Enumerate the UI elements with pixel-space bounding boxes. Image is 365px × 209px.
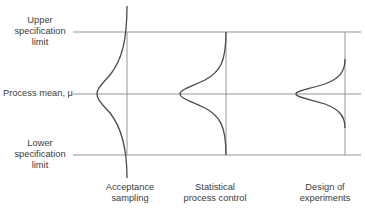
label-line: Upper: [10, 15, 70, 26]
label-line: sampling: [95, 193, 165, 204]
label-line: specification: [10, 26, 70, 37]
doe-label: Design of experiments: [295, 182, 355, 204]
label-line: Statistical: [172, 182, 258, 193]
label-line: limit: [10, 37, 70, 48]
label-line: process control: [172, 193, 258, 204]
spc-distribution-curve: [180, 32, 226, 155]
doe-distribution-curve: [296, 59, 345, 128]
label-line: Lower: [10, 138, 70, 149]
acceptance-sampling-label: Acceptance sampling: [95, 182, 165, 204]
label-line: specification: [10, 149, 70, 160]
label-line: limit: [10, 160, 70, 171]
label-line: experiments: [295, 193, 355, 204]
upper-spec-limit-label: Upper specification limit: [10, 15, 70, 48]
label-line: Process mean, μ: [3, 88, 71, 99]
spc-label: Statistical process control: [172, 182, 258, 204]
lower-spec-limit-label: Lower specification limit: [10, 138, 70, 171]
label-line: Design of: [295, 182, 355, 193]
process-mean-label: Process mean, μ: [3, 88, 71, 99]
label-line: Acceptance: [95, 182, 165, 193]
